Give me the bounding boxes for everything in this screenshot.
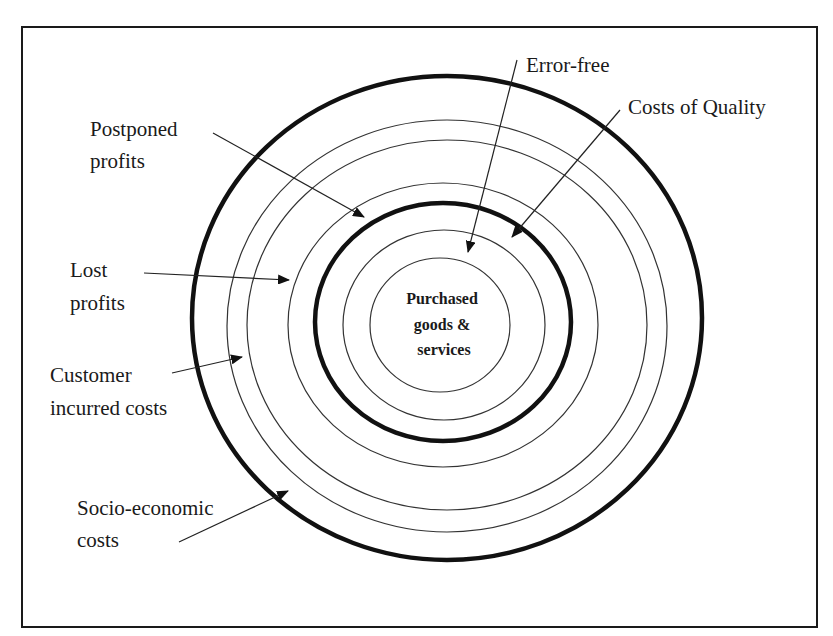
label-customer-incurred-costs-line-2: incurred costs <box>50 396 167 420</box>
label-customer-incurred-costs: Customer incurred costs <box>50 363 167 420</box>
label-lost-profits-line-2: profits <box>70 291 125 315</box>
center-label-line-3: services <box>417 341 470 358</box>
label-postponed-profits: Postponed profits <box>90 117 183 173</box>
leader-arrows <box>144 60 620 542</box>
lost-profits-arrow <box>144 273 289 280</box>
label-postponed-profits-line-1: Postponed <box>90 117 178 141</box>
label-socio-economic-costs-line-2: costs <box>77 528 119 552</box>
label-customer-incurred-costs-line-1: Customer <box>50 363 132 387</box>
center-label-line-2: goods & <box>414 316 470 334</box>
error-free-arrow <box>468 60 517 252</box>
center-label: Purchased goods & services <box>406 290 482 358</box>
costs-of-quality-arrow <box>512 110 620 237</box>
label-lost-profits-line-1: Lost <box>70 258 108 282</box>
label-socio-economic-costs-line-1: Socio-economic <box>77 496 213 520</box>
label-socio-economic-costs: Socio-economic costs <box>77 496 219 552</box>
label-error-free-line-1: Error-free <box>526 53 610 77</box>
label-postponed-profits-line-2: profits <box>90 149 145 173</box>
label-costs-of-quality: Costs of Quality <box>628 95 766 119</box>
label-error-free: Error-free <box>526 53 610 77</box>
label-costs-of-quality-line-1: Costs of Quality <box>628 95 766 119</box>
center-label-line-1: Purchased <box>406 290 478 307</box>
concentric-costs-diagram: Purchased goods & services Error-free Co… <box>0 0 833 636</box>
label-lost-profits: Lost profits <box>70 258 125 315</box>
